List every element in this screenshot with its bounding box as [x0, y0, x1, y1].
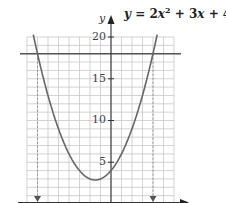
equation-label: y = 2x2 + 3x + 4: [124, 5, 226, 21]
y-tick-15: 15: [86, 73, 106, 84]
y-tick-20: 20: [86, 31, 106, 42]
y-tick-10: 10: [86, 114, 106, 125]
y-tick-5: 5: [86, 156, 106, 167]
y-axis-label: y: [99, 12, 105, 25]
parabola-chart: [0, 0, 226, 203]
